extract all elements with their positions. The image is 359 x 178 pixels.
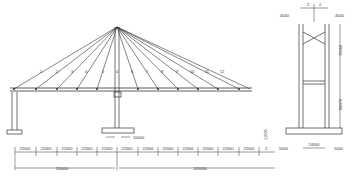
svg-text:22000: 22000 — [81, 146, 93, 151]
svg-text:6: 6 — [131, 69, 134, 74]
top-offset-right: 2 — [319, 2, 322, 7]
svg-text:22000: 22000 — [222, 146, 234, 151]
svg-text:22000: 22000 — [61, 146, 73, 151]
svg-text:22000: 22000 — [162, 146, 174, 151]
svg-text:22000: 22000 — [142, 146, 154, 151]
svg-text:22000: 22000 — [182, 146, 194, 151]
right-footing-label: 5000 — [334, 146, 344, 151]
right-end-dim-label: 11000 — [263, 128, 268, 140]
lower-height-label: 28476 — [338, 98, 343, 110]
svg-text:10: 10 — [190, 69, 195, 74]
right-span-label: 165000 — [193, 166, 207, 171]
svg-text:3: 3 — [71, 69, 74, 74]
left-width-label: 4000 — [280, 13, 290, 18]
tower-cross-section — [286, 24, 342, 134]
svg-text:22000: 22000 — [101, 146, 113, 151]
upper-height-label: 70000 — [338, 44, 343, 56]
svg-text:22000: 22000 — [121, 146, 133, 151]
base-width-label: 24000 — [308, 142, 320, 147]
left-footing-label: 5000 — [279, 146, 289, 151]
svg-text:22000: 22000 — [202, 146, 214, 151]
left-pier — [7, 92, 22, 134]
svg-text:8: 8 — [161, 69, 164, 74]
svg-text:2: 2 — [265, 146, 268, 151]
stay-cables — [14, 27, 250, 89]
top-offset-left: 2 — [307, 2, 310, 7]
bridge-diagram: 1 2 3 4 5 0 6 7 8 9 10 11 12 10000 22000 — [0, 0, 359, 178]
deck — [10, 88, 252, 91]
cable-labels: 1 2 3 4 5 0 6 7 8 9 10 11 12 — [40, 69, 225, 74]
segment-dim-labels: 22000 22000 22000 22000 22000 22000 2200… — [19, 146, 267, 151]
svg-text:5: 5 — [102, 69, 105, 74]
tower-base-dim-label: 10000 — [133, 135, 145, 140]
svg-text:0: 0 — [116, 69, 119, 74]
svg-text:12: 12 — [220, 69, 225, 74]
svg-text:7: 7 — [146, 69, 149, 74]
svg-text:22000: 22000 — [243, 146, 255, 151]
right-width-label: 4000 — [335, 13, 345, 18]
left-span-label: 110000 — [55, 166, 69, 171]
svg-text:9: 9 — [176, 69, 179, 74]
svg-text:22000: 22000 — [19, 146, 31, 151]
svg-text:22000: 22000 — [40, 146, 52, 151]
svg-text:1: 1 — [40, 69, 43, 74]
cross-section-dims — [300, 4, 340, 148]
tower — [114, 27, 121, 128]
tower-footing — [102, 128, 134, 133]
